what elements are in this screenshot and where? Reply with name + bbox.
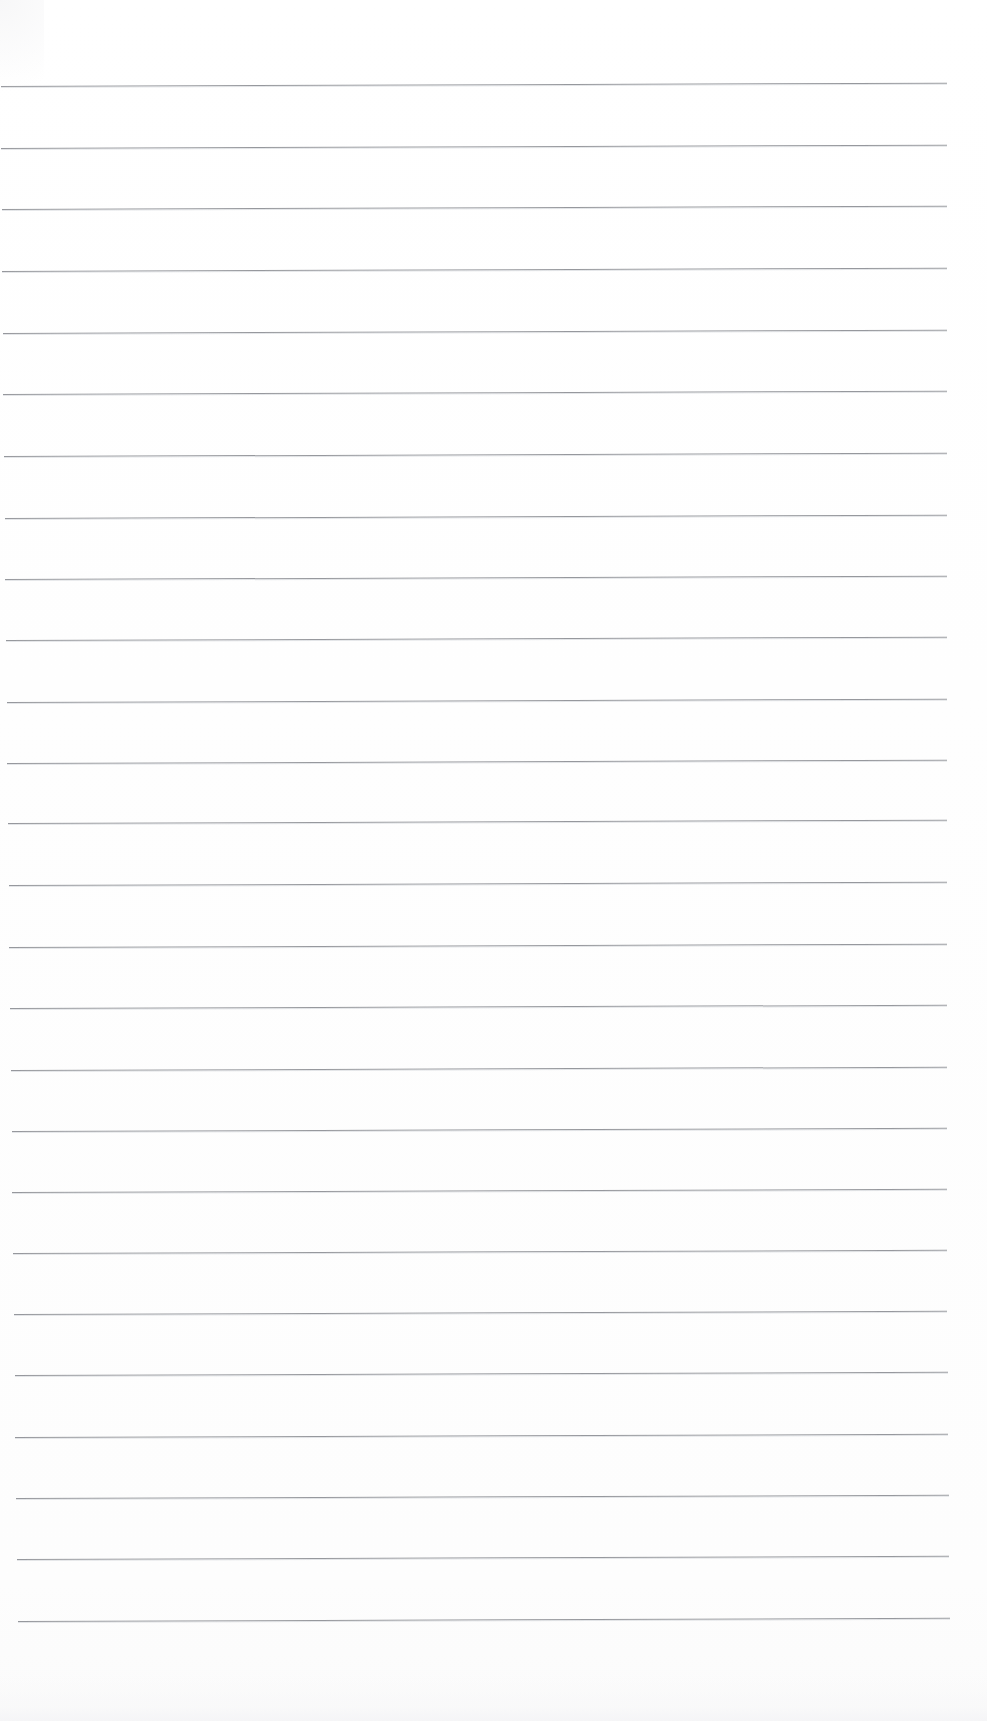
ruled-line: [17, 1556, 949, 1560]
ruled-line: [1, 145, 947, 149]
ruled-line: [15, 1372, 948, 1376]
ruled-line: [10, 1005, 947, 1009]
ruled-line: [7, 760, 947, 764]
scanned-page: [0, 0, 987, 1721]
ruled-line: [5, 515, 947, 519]
ruled-line: [12, 1189, 947, 1193]
ruled-line: [4, 453, 947, 457]
ruled-line: [9, 944, 947, 948]
ruled-line: [8, 820, 947, 824]
ruled-line: [16, 1495, 949, 1499]
ruled-line: [2, 206, 947, 210]
ruled-line: [3, 391, 947, 395]
ruled-line: [11, 1067, 947, 1071]
ruled-line: [15, 1434, 948, 1438]
ruled-line: [7, 699, 947, 703]
ruled-line: [13, 1250, 947, 1254]
ruled-line: [1, 83, 947, 87]
ruled-line: [6, 637, 947, 641]
ruled-lines-layer: [0, 0, 987, 1721]
ruled-line: [12, 1128, 947, 1132]
ruled-line: [18, 1618, 950, 1622]
ruled-line: [3, 330, 947, 334]
ruled-line: [2, 268, 947, 272]
ruled-line: [14, 1311, 947, 1315]
ruled-line: [9, 882, 947, 886]
ruled-line: [5, 576, 947, 580]
